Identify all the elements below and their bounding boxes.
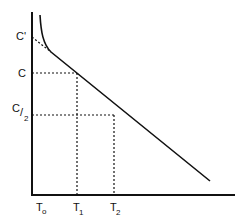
c-prime-dashed bbox=[32, 37, 51, 52]
decay-curve bbox=[40, 15, 210, 181]
label-c-prime: C' bbox=[16, 30, 26, 42]
label-t1-sub: 1 bbox=[79, 208, 84, 217]
label-c-half-den: 2 bbox=[24, 114, 29, 123]
label-t0-sub: o bbox=[42, 207, 47, 216]
label-c: C bbox=[18, 67, 26, 79]
label-c-half-num: C bbox=[12, 102, 20, 114]
diagram-canvas: C' C C / 2 T o T 1 T 2 bbox=[0, 0, 245, 223]
label-t2-sub: 2 bbox=[116, 208, 121, 217]
